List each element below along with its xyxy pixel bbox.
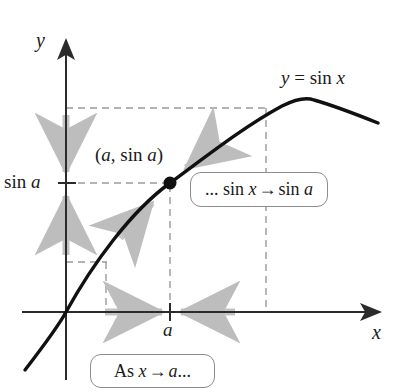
callout-limit-value: ... sin x→sin a	[190, 172, 328, 207]
x-axis-tick-label-a: a	[163, 320, 173, 339]
callout-approach-prefix: As	[114, 361, 134, 382]
callout-approach-ellipsis: ...	[178, 361, 192, 382]
point-coordinate-label: (a, sin a)	[95, 145, 163, 164]
point-marker-dot	[164, 177, 177, 190]
x-axis-label: x	[372, 322, 381, 342]
approach-arrow-curve-lower	[120, 203, 152, 238]
point-label-y-var: a	[147, 144, 157, 165]
sin-a-variable: a	[31, 171, 41, 192]
right-arrow-icon-2: →	[147, 361, 169, 382]
approach-arrow-curve-upper	[186, 143, 218, 168]
sine-limit-figure: y x sin a a (a, sin a) y = sin x ... sin…	[0, 0, 397, 392]
y-axis-label: y	[36, 30, 45, 50]
curve-label-x-var: x	[337, 67, 345, 88]
axes	[22, 40, 380, 380]
marked-point	[164, 177, 177, 190]
curve-equation-label: y = sin x	[281, 68, 345, 87]
callout-approach-x-var: x	[139, 361, 147, 382]
callout-approach: As x→a...	[90, 354, 215, 388]
y-axis-tick-label-sin-a: sin a	[4, 172, 40, 191]
curve-label-y-var: y	[281, 67, 289, 88]
callout-limit-x-var: x	[249, 179, 257, 200]
callout-approach-a-var: a	[169, 361, 178, 382]
point-label-x-var: a	[101, 144, 111, 165]
sine-curve	[25, 99, 378, 370]
reference-lines	[66, 108, 268, 312]
callout-limit-a-var: a	[304, 179, 313, 200]
sine-curve-path	[25, 99, 378, 370]
right-arrow-icon: →	[257, 179, 279, 200]
callout-limit-prefix: ... sin	[205, 179, 244, 200]
callout-limit-suffix: sin	[279, 179, 300, 200]
